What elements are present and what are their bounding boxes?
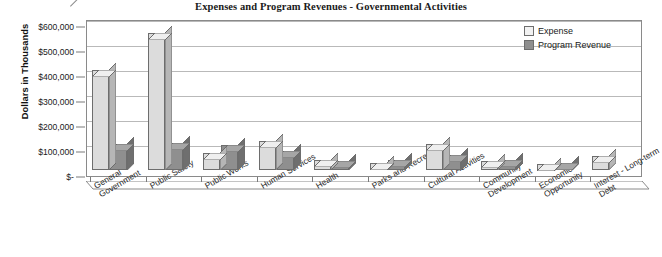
bar-group: [148, 20, 204, 177]
x-axis-labels: GeneralGovernmentPublic SafetyPublic Wor…: [0, 178, 662, 257]
bar-top-face: [203, 146, 227, 153]
y-axis-tick-label: $400,000: [38, 72, 74, 82]
x-axis-tick-mark: [312, 177, 313, 182]
x-axis-tick-mark: [90, 177, 91, 182]
bar-top-face: [148, 26, 172, 33]
legend-label: Expense: [538, 26, 573, 36]
x-axis-tick-mark: [479, 177, 480, 182]
bar-front-face: [148, 33, 165, 171]
bar-expense[interactable]: [537, 164, 554, 170]
bar-top-face: [592, 149, 616, 156]
bar-expense[interactable]: [481, 161, 498, 170]
legend-item[interactable]: Expense: [524, 24, 640, 37]
y-axis-tick-label: $200,000: [38, 122, 74, 132]
bar-side-face: [109, 63, 116, 170]
bar-top-face: [92, 63, 116, 70]
bar-group: [203, 20, 259, 177]
chart-legend: ExpenseProgram Revenue: [524, 24, 640, 52]
y-axis-tick-mark: [76, 102, 85, 103]
bar-expense[interactable]: [148, 33, 165, 171]
legend-label: Program Revenue: [538, 40, 611, 50]
x-axis-tick-mark: [535, 177, 536, 182]
bar-group: [314, 20, 370, 177]
y-axis-tick-label: $300,000: [38, 97, 74, 107]
y-axis-tick-mark: [76, 77, 85, 78]
bar-front-face: [92, 70, 109, 170]
y-axis-tick-label: $500,000: [38, 47, 74, 57]
bar-top-face: [537, 157, 561, 164]
y-axis-tick-mark: [76, 127, 85, 128]
y-axis: Dollars in Thousands $600,000$500,000$40…: [0, 20, 86, 177]
legend-swatch-expense: [524, 26, 534, 36]
x-axis-tick-mark: [146, 177, 147, 182]
x-axis-tick-mark: [201, 177, 202, 182]
legend-item[interactable]: Program Revenue: [524, 38, 640, 51]
bar-expense[interactable]: [203, 153, 220, 171]
bar-expense[interactable]: [370, 163, 387, 171]
bar-expense[interactable]: [92, 70, 109, 170]
x-axis-tick-mark: [257, 177, 258, 182]
y-axis-tick-label: $100,000: [38, 147, 74, 157]
legend-swatch-revenue: [524, 40, 534, 50]
bar-top-face: [370, 156, 394, 163]
bar-top-face: [221, 138, 245, 145]
bar-expense[interactable]: [592, 156, 609, 170]
y-axis-tick-mark: [76, 27, 85, 28]
bar-expense[interactable]: [259, 141, 276, 170]
bar-side-face: [165, 26, 172, 171]
bar-group: [92, 20, 148, 177]
bar-expense[interactable]: [314, 160, 331, 170]
x-axis-tick-mark: [590, 177, 591, 182]
bar-top-face: [314, 153, 338, 160]
x-axis-tick-mark: [424, 177, 425, 182]
y-axis-tick-label: $600,000: [38, 22, 74, 32]
bar-expense[interactable]: [426, 144, 443, 170]
y-axis-tick-mark: [76, 152, 85, 153]
chart-title: Expenses and Program Revenues - Governme…: [0, 1, 662, 12]
x-axis-tick-mark: [368, 177, 369, 182]
y-axis-tick-mark: [76, 52, 85, 53]
bar-top-face: [481, 154, 505, 161]
chart-container: Expenses and Program Revenues - Governme…: [0, 0, 662, 257]
y-axis-title: Dollars in Thousands: [19, 2, 30, 142]
bar-top-face: [259, 134, 283, 141]
bar-top-face: [426, 137, 450, 144]
